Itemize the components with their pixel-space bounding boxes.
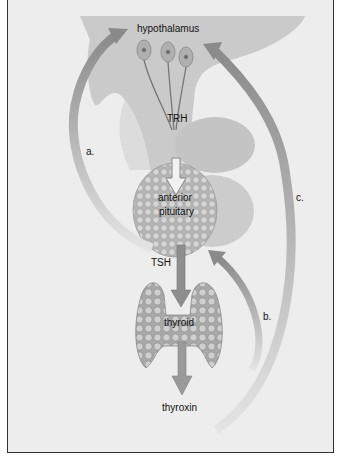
hypothalamus-label: hypothalamus (137, 24, 199, 34)
anterior-pituitary-label-line2: pituitary (159, 207, 194, 217)
thyroxin-label: thyroxin (162, 403, 197, 413)
thyroid-label: thyroid (164, 318, 194, 328)
feedback-label-c: c. (296, 193, 304, 203)
feedback-label-a: a. (86, 147, 94, 157)
anterior-pituitary-label-line1: anterior (158, 193, 192, 203)
thyroxin-arrow (172, 342, 192, 395)
diagram-canvas (0, 0, 344, 462)
feedback-label-b: b. (263, 312, 271, 322)
tsh-label: TSH (151, 258, 171, 268)
trh-label: TRH (167, 114, 188, 124)
